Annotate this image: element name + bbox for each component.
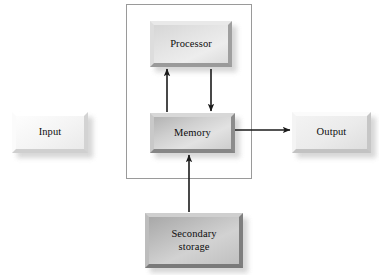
node-label: Input xyxy=(37,126,64,138)
diagram-canvas: ProcessorMemoryInputOutputSecondary stor… xyxy=(0,0,379,275)
node-label: Processor xyxy=(168,38,214,50)
node-output[interactable]: Output xyxy=(292,112,371,153)
node-memory[interactable]: Memory xyxy=(150,113,235,153)
node-secondary-storage[interactable]: Secondary storage xyxy=(145,213,243,268)
node-input[interactable]: Input xyxy=(12,112,88,153)
node-label: Secondary storage xyxy=(169,228,218,253)
node-label: Output xyxy=(315,126,349,138)
node-label: Memory xyxy=(172,127,213,139)
node-processor[interactable]: Processor xyxy=(150,21,232,67)
